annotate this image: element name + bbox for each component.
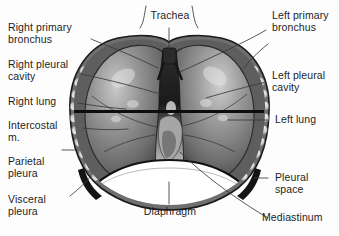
label-parietal-pleura: Parietal pleura [8, 156, 44, 179]
label-left-primary-bronchus: Left primary bronchus [272, 10, 329, 33]
label-visceral-pleura: Visceral pleura [8, 194, 46, 217]
label-right-pleural-cavity: Right pleural cavity [8, 59, 68, 82]
label-diaphragm: Diaphragm [133, 206, 207, 218]
label-right-primary-bronchus: Right primary bronchus [8, 22, 72, 45]
label-mediastinum: Mediastinum [262, 212, 323, 224]
label-pleural-space: Pleural space [275, 172, 308, 195]
section-rule [74, 110, 264, 113]
label-trachea: Trachea [143, 10, 197, 22]
trachea-shape [163, 48, 176, 64]
label-right-lung: Right lung [8, 96, 56, 108]
label-left-pleural-cavity: Left pleural cavity [272, 70, 325, 93]
anatomy-figure: Right primary bronchus Right pleural cav… [0, 0, 339, 236]
label-left-lung: Left lung [275, 114, 316, 126]
label-intercostal-muscle: Intercostal m. [8, 120, 58, 143]
